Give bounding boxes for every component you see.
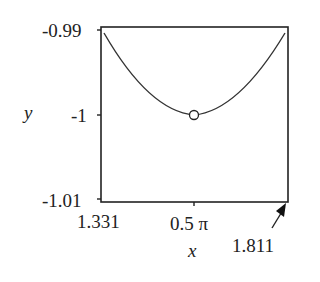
- xtick-label-mid: 0.5 π: [170, 214, 208, 233]
- ytick-label-bot: -1.01: [42, 191, 82, 210]
- ytick-label-mid: -1: [71, 106, 87, 125]
- x-axis-label: x: [188, 241, 196, 260]
- curve-line: [104, 33, 285, 115]
- ytick-label-top: -0.99: [42, 21, 82, 40]
- minimum-marker: [190, 111, 199, 120]
- xtick-label-left: 1.331: [77, 212, 120, 231]
- y-axis-label: y: [24, 103, 32, 122]
- xtick-label-right-annotation: 1.811: [232, 236, 274, 255]
- annotation-arrow-head: [276, 203, 286, 217]
